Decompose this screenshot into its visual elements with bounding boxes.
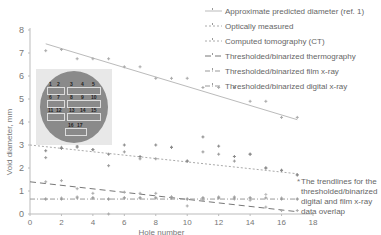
hole-label: 10 bbox=[91, 94, 97, 100]
y-axis-label: Void diameter, mm bbox=[5, 109, 14, 176]
y-tick-label: 4 bbox=[19, 117, 24, 127]
x-tick-label: 12 bbox=[214, 218, 223, 227]
hole-label: 16 bbox=[68, 122, 74, 128]
x-tick-label: 10 bbox=[183, 218, 192, 227]
y-tick-label: 6 bbox=[19, 71, 24, 81]
x-tick-label: 18 bbox=[309, 218, 318, 227]
legend-item-ct: Computed tomography (CT) bbox=[225, 34, 364, 49]
y-tick-label: 2 bbox=[19, 163, 24, 173]
trendline bbox=[30, 182, 297, 212]
x-tick-label: 16 bbox=[277, 218, 286, 227]
x-tick-label: 14 bbox=[246, 218, 255, 227]
trendline-note: The trendlines for the thresholded/binar… bbox=[301, 177, 381, 217]
y-tick-label: 7 bbox=[19, 48, 24, 58]
y-tick-label: 3 bbox=[19, 140, 24, 150]
trendline bbox=[30, 145, 297, 174]
x-axis-label: Hole number bbox=[139, 228, 185, 235]
legend-item-predicted: Approximate predicted diameter (ref. 1) bbox=[225, 4, 364, 19]
hole-label: 4 bbox=[81, 81, 84, 87]
specimen-disk: 1 2 3 4 5 6 7 8 9 10 11 12 13 14 15 16 1… bbox=[40, 71, 108, 143]
y-tick-label: 0 bbox=[19, 209, 24, 219]
hole-label: 2 bbox=[57, 81, 60, 87]
hole-label: 11 bbox=[48, 107, 53, 113]
x-tick-label: 6 bbox=[122, 218, 127, 227]
legend-item-digital-xray: Thresholded/binarized digital x-ray bbox=[225, 79, 364, 94]
y-tick-label: 5 bbox=[19, 94, 24, 104]
hole-label: 12 bbox=[56, 107, 62, 113]
x-tick-label: 8 bbox=[154, 218, 159, 227]
note-marker: * bbox=[297, 177, 300, 186]
legend: Approximate predicted diameter (ref. 1) … bbox=[225, 4, 364, 94]
hole-label: 6 bbox=[49, 94, 52, 100]
chart-figure: 012345678024681012141618Hole numberVoid … bbox=[0, 0, 381, 235]
hole-label: 8 bbox=[70, 94, 73, 100]
hole-label: 9 bbox=[81, 94, 84, 100]
x-tick-label: 2 bbox=[59, 218, 64, 227]
x-tick-label: 4 bbox=[91, 218, 96, 227]
hole-label: 17 bbox=[77, 122, 83, 128]
hole-label: 5 bbox=[92, 81, 95, 87]
hole-group-slot bbox=[65, 128, 87, 136]
legend-item-optical: Optically measured bbox=[225, 19, 364, 34]
y-tick-label: 1 bbox=[19, 186, 24, 196]
hole-label: 14 bbox=[80, 107, 86, 113]
legend-item-thermography: Thresholded/binarized thermography bbox=[225, 49, 364, 64]
hole-group-slot bbox=[47, 113, 65, 121]
hole-label: 13 bbox=[69, 107, 75, 113]
specimen-photo: 1 2 3 4 5 6 7 8 9 10 11 12 13 14 15 16 1… bbox=[36, 69, 112, 145]
y-tick-label: 8 bbox=[19, 25, 24, 35]
hole-label: 7 bbox=[57, 94, 60, 100]
legend-item-film-xray: Thresholded/binarized film x-ray bbox=[225, 64, 364, 79]
hole-group-slot bbox=[67, 113, 101, 121]
hole-label: 1 bbox=[49, 81, 52, 87]
hole-label: 15 bbox=[91, 107, 97, 113]
hole-label: 3 bbox=[70, 81, 73, 87]
x-tick-label: 0 bbox=[28, 218, 33, 227]
